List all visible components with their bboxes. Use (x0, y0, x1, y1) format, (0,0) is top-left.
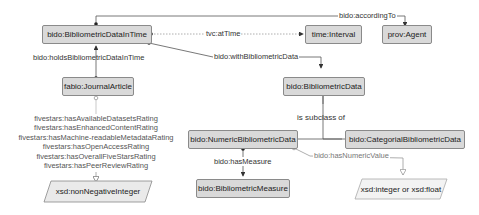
node-bibliometric-data[interactable]: bido:BibliometricData (283, 77, 365, 96)
node-prov-agent[interactable]: prov:Agent (382, 25, 432, 44)
datatype-integer-or-float[interactable]: xsd:integer or xsd:float (357, 179, 445, 199)
edge-label-according-to: bido:accordingTo (338, 11, 397, 20)
edge-label-is-subclass-of: is subclass of (297, 113, 345, 122)
rating-label: fivestars:hasPeerReviewRating (6, 161, 186, 170)
ratings-edge-labels: fivestars:hasAvailableDatasetsRating fiv… (6, 114, 186, 170)
edge-label-has-measure: bido:hasMeasure (213, 157, 273, 166)
node-time-interval[interactable]: time:Interval (305, 25, 362, 44)
node-journal-article[interactable]: fabio:JournalArticle (62, 77, 134, 96)
rating-label: fivestars:hasMachine-readableMetadataRat… (6, 133, 186, 142)
node-numeric-bibliometric-data[interactable]: bido:NumericBibliometricData (188, 130, 298, 149)
rating-label: fivestars:hasOverallFiveStarsRating (6, 152, 186, 161)
node-categorial-bibliometric-data[interactable]: bido:CategorialBibliometricData (345, 130, 465, 149)
node-bibliometric-measure[interactable]: bido:BibliometricMeasure (196, 179, 290, 198)
edge-label-with-bibliometric-data: bido:withBibliometricData (213, 52, 299, 61)
edge-label-has-numeric-value: bido:hasNumericValue (313, 151, 390, 160)
datatype-non-negative-integer[interactable]: xsd:nonNegativeInteger (46, 181, 150, 202)
edge-label-at-time: tvc:atTime (205, 29, 241, 38)
edge-label-holds-bibliometric-data-in-time: bido:holdsBibliometricDataInTime (33, 53, 144, 62)
node-bibliometric-data-in-time[interactable]: bido:BibliometricDataInTime (42, 25, 152, 44)
rating-label: fivestars:hasAvailableDatasetsRating (6, 114, 186, 123)
rating-label: fivestars:hasEnhancedContentRating (6, 123, 186, 132)
rating-label: fivestars:hasOpenAccessRating (6, 142, 186, 151)
